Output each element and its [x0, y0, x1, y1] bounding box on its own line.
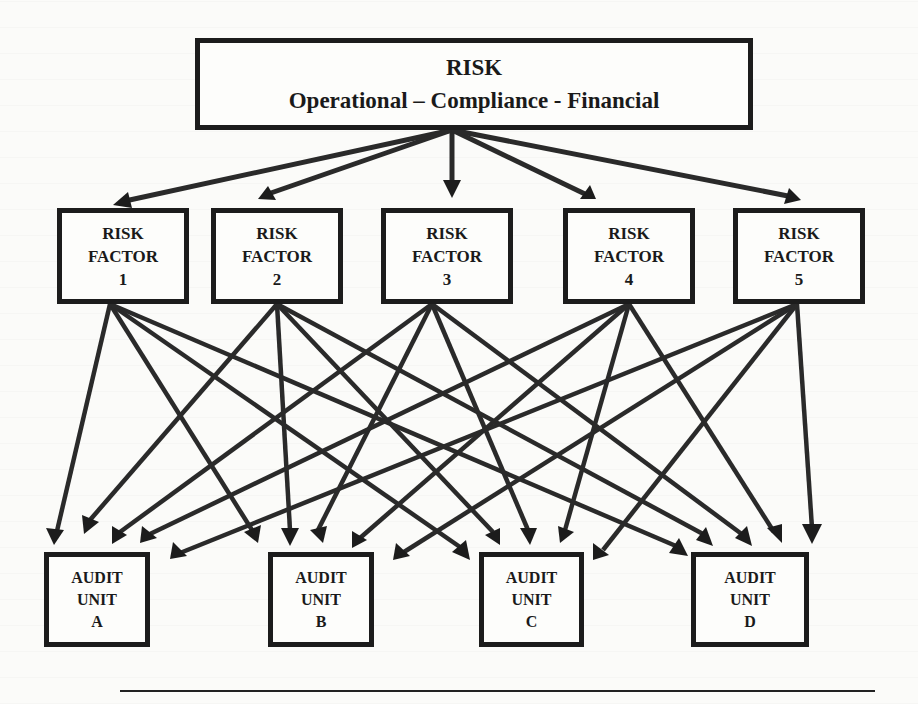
risk-factor-number: 1: [119, 268, 128, 291]
risk-factor-label: FACTOR: [242, 245, 312, 268]
risk-factor-label: RISK: [256, 222, 298, 245]
risk-factor-4-node: RISK FACTOR 4: [563, 208, 695, 304]
audit-unit-letter: C: [526, 611, 538, 633]
audit-unit-b-node: AUDIT UNIT B: [268, 552, 374, 647]
horizontal-rule: [120, 690, 875, 692]
audit-unit-label: AUDIT: [724, 567, 776, 589]
audit-unit-label: UNIT: [301, 589, 341, 611]
risk-to-factor-arrowheads: [113, 180, 801, 208]
audit-unit-label: UNIT: [77, 589, 117, 611]
audit-unit-letter: A: [91, 611, 103, 633]
risk-factor-1-node: RISK FACTOR 1: [57, 208, 189, 304]
risk-factor-3-node: RISK FACTOR 3: [381, 208, 513, 304]
audit-unit-c-node: AUDIT UNIT C: [479, 552, 584, 647]
risk-factor-label: RISK: [778, 222, 820, 245]
audit-unit-letter: B: [316, 611, 327, 633]
risk-subtitle: Operational – Compliance - Financial: [289, 84, 660, 117]
risk-factor-label: RISK: [426, 222, 468, 245]
audit-unit-label: AUDIT: [295, 567, 347, 589]
risk-factor-number: 3: [443, 268, 452, 291]
risk-factor-label: FACTOR: [88, 245, 158, 268]
audit-unit-label: UNIT: [511, 589, 551, 611]
risk-factor-label: RISK: [608, 222, 650, 245]
risk-title: RISK: [446, 51, 502, 84]
audit-unit-letter: D: [744, 611, 756, 633]
audit-unit-label: AUDIT: [506, 567, 558, 589]
risk-factor-label: FACTOR: [764, 245, 834, 268]
risk-factor-label: FACTOR: [594, 245, 664, 268]
risk-factor-5-node: RISK FACTOR 5: [733, 208, 865, 304]
audit-unit-a-node: AUDIT UNIT A: [44, 552, 150, 647]
audit-unit-label: UNIT: [730, 589, 770, 611]
risk-factor-number: 5: [795, 268, 804, 291]
risk-top-node: RISK Operational – Compliance - Financia…: [195, 38, 753, 130]
risk-to-factor-arrows: [125, 130, 788, 201]
risk-factor-number: 2: [273, 268, 282, 291]
audit-unit-label: AUDIT: [71, 567, 123, 589]
risk-factor-label: RISK: [102, 222, 144, 245]
factor-to-unit-arrows: [57, 304, 812, 553]
risk-factor-number: 4: [625, 268, 634, 291]
audit-unit-d-node: AUDIT UNIT D: [691, 552, 809, 647]
risk-factor-2-node: RISK FACTOR 2: [211, 208, 343, 304]
risk-factor-label: FACTOR: [412, 245, 482, 268]
